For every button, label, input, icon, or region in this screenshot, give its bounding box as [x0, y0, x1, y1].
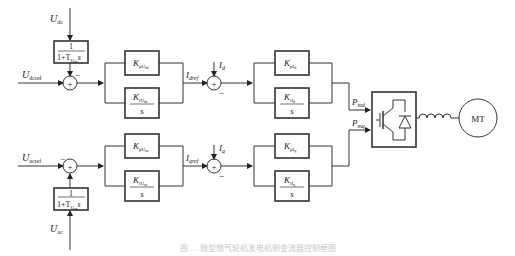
label-ki-udc: KiUdc	[132, 92, 148, 104]
pi-inner-p-d	[275, 51, 309, 75]
minus-sign: −	[219, 171, 224, 181]
label-iq: Iq	[218, 143, 225, 154]
label-udcref: Udcref	[22, 69, 42, 81]
figure-caption: 图 … 微型燃气轮机发电机侧变流器控制框图	[180, 243, 336, 253]
filter-numerator: 1	[69, 189, 73, 198]
minus-sign: −	[75, 70, 80, 80]
inductor-icon	[416, 114, 459, 118]
label-kp-id: KpId	[283, 58, 296, 70]
igbt-diode-icon	[376, 100, 411, 140]
label-s: s	[290, 189, 294, 199]
label-pmd: Pmd	[351, 97, 366, 108]
label-ki-uac: KiUac	[132, 175, 148, 187]
label-idref: Idref	[185, 70, 200, 81]
label-uac: Uac	[50, 223, 63, 235]
label-ki-iq: KiIq	[283, 175, 295, 187]
plus-sign: +	[67, 79, 72, 89]
filter-numerator: 1	[69, 42, 73, 51]
label-id: Id	[218, 60, 226, 71]
label-kp-uac: KpUac	[132, 141, 149, 153]
plus-sign: +	[67, 162, 72, 172]
plus-sign: +	[211, 162, 216, 172]
plus-sign: +	[211, 79, 216, 89]
label-pmq: Pmq	[351, 118, 365, 129]
minus-sign: −	[219, 88, 224, 98]
label-kp-iq: KpIq	[283, 141, 296, 153]
control-block-diagram: − − − − + + + + Udc 1 1+TUdcs Udcref KpU…	[0, 0, 515, 256]
label-s: s	[290, 106, 294, 116]
label-kp-udc: KpUdc	[132, 58, 149, 70]
label-udc: Udc	[50, 13, 63, 25]
label-s: s	[140, 106, 144, 116]
pi-outer-p-ac	[125, 134, 159, 158]
machine-label: MT	[471, 114, 485, 124]
pi-inner-p-q	[275, 134, 309, 158]
pi-outer-p-dc	[125, 51, 159, 75]
label-uacref: Uacref	[22, 152, 41, 164]
minus-sign: −	[60, 154, 65, 164]
label-ki-id: KiId	[283, 92, 295, 104]
label-s: s	[140, 189, 144, 199]
label-iqref: Iqref	[185, 153, 200, 164]
